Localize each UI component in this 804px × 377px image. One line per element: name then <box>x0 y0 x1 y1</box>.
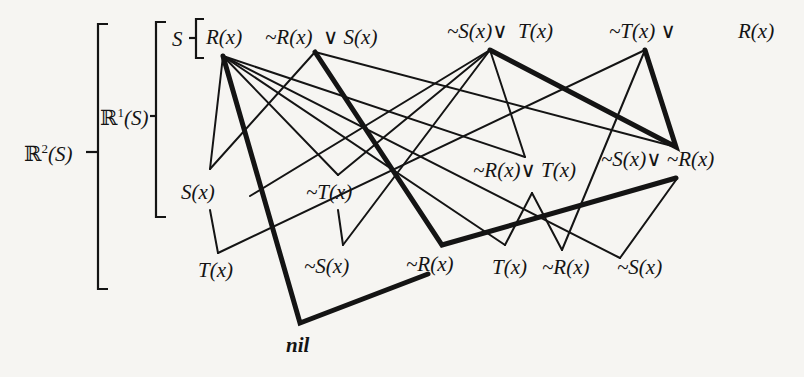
resolvent-nots-2: ~S(x) <box>617 257 662 278</box>
s-bracket <box>196 19 204 58</box>
resolvent-nots-or-notr: ~S(x)∨ ~R(x) <box>601 149 714 170</box>
resolution-graph <box>0 0 804 377</box>
clause-nott-or: ~T(x) ∨ <box>609 21 676 42</box>
r2-level-label: ℝ2(S) <box>24 142 72 165</box>
clause-r: R(x) <box>206 27 242 48</box>
resolvent-s: S(x) <box>181 182 215 203</box>
resolvent-notr: ~R(x) <box>406 254 454 275</box>
r1-bracket <box>156 22 166 217</box>
resolvent-notr-or-t: ~R(x)∨ T(x) <box>473 160 576 181</box>
resolvent-t-2: T(x) <box>492 257 527 278</box>
empty-clause-nil: nil <box>286 335 309 356</box>
r1-level-label: ℝ1(S) <box>100 106 148 129</box>
resolvent-nott: ~T(x) <box>306 182 352 203</box>
clause-notr-or-s: ~R(x) ∨ S(x) <box>265 27 377 48</box>
s-level-label: S <box>172 29 183 50</box>
clause-nots-or-t: ~S(x)∨ T(x) <box>447 21 553 42</box>
level-brackets <box>86 19 204 289</box>
resolvent-notr-2: ~R(x) <box>542 257 590 278</box>
resolvent-nots: ~S(x) <box>304 256 349 277</box>
resolvent-t: T(x) <box>198 260 233 281</box>
clause-r-right: R(x) <box>738 21 774 42</box>
r2-bracket <box>98 24 108 289</box>
